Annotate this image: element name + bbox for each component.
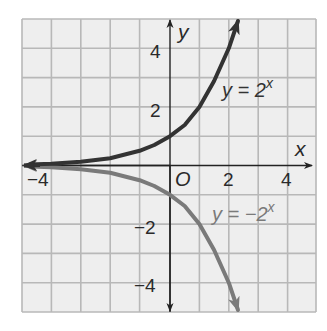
y-axis-label: y [176, 20, 190, 43]
x-axis-label: x [294, 137, 307, 160]
y-tick-neg2: −2 [134, 217, 156, 238]
equation-label-neg: y = −2x [210, 199, 276, 225]
y-tick-2: 2 [150, 100, 161, 121]
y-tick-4: 4 [150, 41, 161, 62]
exponential-graph: y x 4 2 −2 −4 −4 O 2 4 y = 2x y = −2x [0, 0, 327, 331]
x-tick-2: 2 [223, 169, 234, 190]
x-tick-neg4: −4 [27, 169, 49, 190]
y-tick-neg4: −4 [134, 275, 156, 296]
equation-label-pos: y = 2x [220, 75, 274, 101]
origin-label: O [175, 168, 191, 190]
x-tick-4: 4 [281, 169, 292, 190]
